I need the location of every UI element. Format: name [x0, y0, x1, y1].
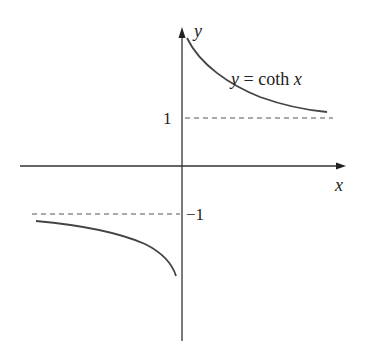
- coth-chart: [0, 0, 374, 354]
- x-axis-arrow-icon: [336, 163, 346, 170]
- x-axis-label: x: [335, 176, 343, 194]
- y-axis-arrow-icon: [179, 27, 186, 38]
- curve-negative: [36, 221, 176, 276]
- tick-label-1: 1: [163, 110, 172, 127]
- y-axis-label: y: [194, 22, 202, 40]
- tick-label-minus1: −1: [186, 206, 204, 223]
- curve-label: y = coth x: [231, 70, 302, 88]
